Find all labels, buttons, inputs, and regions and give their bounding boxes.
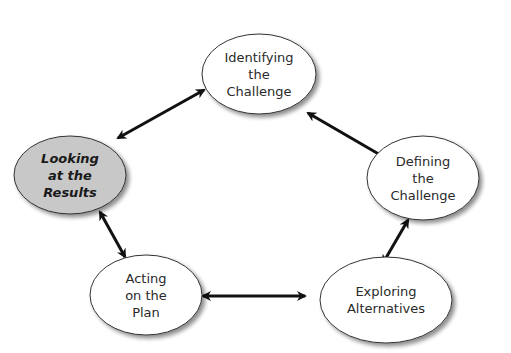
node-acting-ellipse (90, 255, 202, 335)
double-arrow-identifying-defining (308, 113, 389, 160)
double-arrow-acting-looking (100, 212, 125, 257)
double-arrow-looking-identifying (118, 90, 204, 138)
cycle-diagram (0, 0, 511, 353)
node-exploring-ellipse (320, 257, 452, 343)
node-defining-ellipse (367, 136, 479, 220)
node-looking-ellipse (14, 136, 126, 214)
node-identifying-ellipse (202, 34, 316, 114)
